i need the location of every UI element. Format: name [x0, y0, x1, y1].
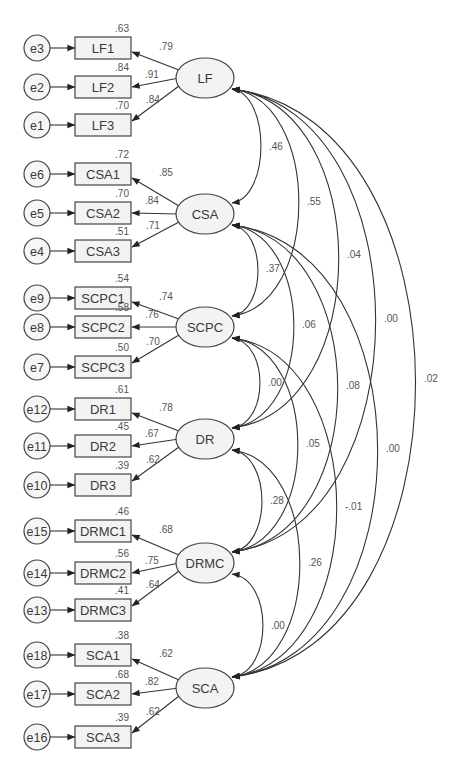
- covariance-value: .28: [270, 495, 284, 506]
- covariance-arc-lf-csa: [232, 89, 261, 203]
- latent-factor-label: SCPC: [187, 320, 223, 335]
- factor-loading-value: .64: [146, 579, 160, 590]
- covariance-arc-csa-scpc: [232, 225, 258, 316]
- observed-variable-label: DRMC2: [80, 566, 126, 581]
- observed-variable-label: SCA1: [86, 648, 120, 663]
- observed-variable-label: DR3: [90, 478, 116, 493]
- factor-loading-path: [132, 213, 179, 214]
- factor-loading-path: [132, 439, 179, 446]
- error-term-label: e3: [30, 42, 44, 56]
- covariance-arc-lf-scpc: [232, 89, 299, 316]
- covariance-value: .02: [424, 373, 438, 384]
- observed-variable-label: DR2: [90, 439, 116, 454]
- factor-loading-value: .78: [159, 402, 173, 413]
- error-term-label: e12: [27, 403, 48, 417]
- error-term-label: e6: [30, 168, 44, 182]
- latent-factor-label: DRMC: [186, 556, 225, 571]
- squared-multiple-correlation: .45: [115, 421, 129, 432]
- squared-multiple-correlation: .70: [115, 100, 129, 111]
- factor-loading-value: .91: [145, 69, 159, 80]
- latent-factor-label: LF: [197, 71, 212, 86]
- factor-group-drmc: e15DRMC1.46.68e14DRMC2.56.75e13DRMC3.41.…: [24, 506, 234, 623]
- factor-loading-value: .84: [145, 195, 159, 206]
- squared-multiple-correlation: .39: [115, 460, 129, 471]
- covariance-value: -.01: [345, 501, 363, 512]
- covariance-value: .37: [266, 263, 280, 274]
- error-term-label: e2: [30, 81, 44, 95]
- covariance-value: .04: [347, 249, 361, 260]
- covariance-value: .46: [269, 141, 283, 152]
- factor-loading-value: .82: [145, 676, 159, 687]
- factor-loading-value: .68: [159, 524, 173, 535]
- squared-multiple-correlation: .39: [115, 712, 129, 723]
- sem-path-diagram: .46.55.04.00.02.37.06.08.00.00.05-.01.28…: [0, 0, 459, 771]
- observed-variable-label: CSA1: [86, 167, 120, 182]
- squared-multiple-correlation: .61: [115, 384, 129, 395]
- observed-variable-label: SCPC3: [81, 360, 124, 375]
- error-term-label: e18: [27, 649, 48, 663]
- factor-loading-value: .84: [146, 94, 160, 105]
- factor-loading-value: .74: [159, 291, 173, 302]
- factor-loading-value: .62: [146, 454, 160, 465]
- error-term-label: e7: [30, 361, 44, 375]
- squared-multiple-correlation: .72: [115, 149, 129, 160]
- covariance-value: .26: [308, 557, 322, 568]
- observed-variable-label: DRMC3: [80, 603, 126, 618]
- covariance-arc-csa-dr: [232, 225, 294, 428]
- measurement-model: e3LF1.63.79e2LF2.84.91e1LF3.70.84LFe6CSA…: [24, 23, 234, 750]
- observed-variable-label: CSA3: [86, 244, 120, 259]
- error-term-label: e9: [30, 292, 44, 306]
- error-term-label: e13: [27, 604, 48, 618]
- factor-loading-value: .85: [159, 167, 173, 178]
- factor-group-sca: e18SCA1.38.62e17SCA2.68.82e16SCA3.39.62S…: [24, 630, 234, 750]
- covariance-arc-scpc-dr: [232, 338, 260, 428]
- observed-variable-label: DR1: [90, 402, 116, 417]
- factor-group-dr: e12DR1.61.78e11DR2.45.67e10DR3.39.62DR: [24, 384, 234, 498]
- squared-multiple-correlation: .50: [115, 342, 129, 353]
- factor-group-csa: e6CSA1.72.85e5CSA2.70.84e4CSA3.51.71CSA: [24, 149, 234, 264]
- covariance-value: .00: [384, 313, 398, 324]
- covariance-arc-csa-sca: [232, 225, 378, 677]
- covariance-value: .06: [302, 319, 316, 330]
- observed-variable-label: DRMC1: [80, 524, 126, 539]
- latent-factor-label: DR: [196, 432, 215, 447]
- observed-variable-label: LF2: [92, 80, 114, 95]
- observed-variable-label: SCPC2: [81, 320, 124, 335]
- squared-multiple-correlation: .38: [115, 630, 129, 641]
- factor-loading-value: .76: [145, 309, 159, 320]
- squared-multiple-correlation: .56: [115, 548, 129, 559]
- covariance-value: .00: [386, 443, 400, 454]
- covariance-value: .00: [268, 377, 282, 388]
- squared-multiple-correlation: .84: [115, 62, 129, 73]
- observed-variable-label: LF3: [92, 118, 114, 133]
- squared-multiple-correlation: .54: [115, 273, 129, 284]
- covariance-value: .05: [306, 438, 320, 449]
- covariance-arc-drmc-sca: [232, 574, 263, 677]
- error-term-label: e15: [27, 525, 48, 539]
- factor-loading-path: [132, 52, 179, 70]
- factor-loading-path: [132, 688, 179, 694]
- observed-variable-label: CSA2: [86, 206, 120, 221]
- squared-multiple-correlation: .46: [115, 506, 129, 517]
- covariance-arcs: .46.55.04.00.02.37.06.08.00.00.05-.01.28…: [232, 89, 438, 677]
- factor-loading-value: .71: [146, 220, 160, 231]
- squared-multiple-correlation: .41: [115, 585, 129, 596]
- factor-loading-value: .75: [145, 555, 159, 566]
- factor-loading-value: .79: [159, 41, 173, 52]
- error-term-label: e14: [27, 567, 48, 581]
- observed-variable-label: SCA3: [86, 730, 120, 745]
- factor-loading-value: .62: [159, 648, 173, 659]
- error-term-label: e8: [30, 321, 44, 335]
- squared-multiple-correlation: .63: [115, 23, 129, 34]
- factor-group-scpc: e9SCPC1.54.74e8SCPC2.58.76e7SCPC3.50.70S…: [24, 273, 234, 380]
- error-term-label: e5: [30, 207, 44, 221]
- squared-multiple-correlation: .70: [115, 188, 129, 199]
- error-term-label: e10: [27, 479, 48, 493]
- observed-variable-label: LF1: [92, 41, 114, 56]
- error-term-label: e16: [27, 731, 48, 745]
- factor-loading-value: .70: [146, 336, 160, 347]
- covariance-arc-dr-drmc: [232, 450, 262, 552]
- squared-multiple-correlation: .51: [115, 226, 129, 237]
- covariance-arc-dr-sca: [232, 450, 300, 677]
- factor-loading-path: [132, 535, 179, 555]
